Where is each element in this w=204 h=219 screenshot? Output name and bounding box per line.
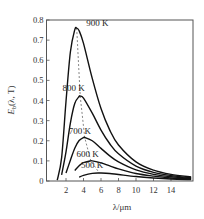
blackbody-radiation-chart: 00.10.20.30.40.50.60.70.8 2468101214 900… [0,0,204,219]
y-axis-label-rest: (λ, T) [6,86,16,106]
plot-area-border [47,20,194,181]
y-tick-label: 0.4 [33,96,44,106]
x-axis-label: λ/μm [113,202,132,212]
x-tick-label: 4 [81,185,86,195]
x-tick-label: 8 [116,185,120,195]
x-tick-label: 6 [99,185,103,195]
y-tick-label: 0.2 [33,136,44,146]
plot-frame [47,20,194,181]
series-labels: 900 K800 K700 K600 K500 K [63,18,109,170]
y-axis-ticks: 00.10.20.30.40.50.60.70.8 [33,15,50,186]
y-tick-label: 0.8 [33,15,44,25]
y-tick-label: 0 [39,176,43,186]
x-tick-label: 14 [167,185,176,195]
y-tick-label: 0.3 [33,116,44,126]
y-tick-label: 0.7 [33,35,44,45]
y-tick-label: 0.6 [33,55,44,65]
series-label-600k: 600 K [77,149,100,159]
x-tick-label: 10 [132,185,141,195]
y-axis-label: Eb(λ, T) [6,86,17,116]
y-tick-label: 0.5 [33,75,44,85]
series-label-900k: 900 K [86,18,109,28]
series-label-700k: 700 K [69,126,92,136]
x-tick-label: 2 [64,185,68,195]
series-label-500k: 500 K [81,160,104,170]
series-label-800k: 800 K [63,83,86,93]
y-tick-label: 0.1 [33,156,44,166]
x-tick-label: 12 [149,185,158,195]
